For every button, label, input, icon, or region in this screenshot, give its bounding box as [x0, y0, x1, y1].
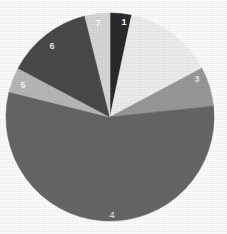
pie-chart-canvas — [0, 0, 227, 234]
pie-chart: 134567 — [0, 0, 227, 234]
pie-slice-group — [6, 13, 214, 221]
